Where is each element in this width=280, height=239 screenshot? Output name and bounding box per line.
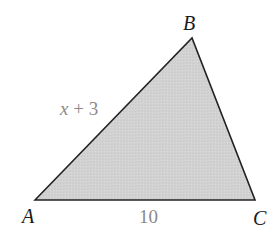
side-label-ab: x + 3	[59, 98, 98, 119]
vertex-label-c: C	[253, 207, 267, 229]
side-label-ab-constant: + 3	[68, 98, 98, 119]
vertex-label-b: B	[183, 12, 195, 34]
triangle-abc	[35, 38, 255, 200]
vertex-label-a: A	[20, 205, 35, 227]
side-label-ac: 10	[139, 206, 158, 227]
triangle-diagram: B A C x + 3 10	[0, 0, 280, 239]
